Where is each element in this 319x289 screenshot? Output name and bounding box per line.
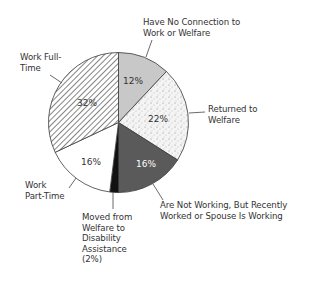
label-line: Worked or Spouse Is Working xyxy=(160,211,287,222)
label-not-working: Are Not Working, But Recently Worked or … xyxy=(160,200,287,221)
label-line: Welfare xyxy=(208,115,258,126)
label-line: Are Not Working, But Recently xyxy=(160,200,287,211)
pct-not-working: 16% xyxy=(136,159,156,169)
label-line: Disability xyxy=(82,233,132,244)
label-line: Work xyxy=(25,180,64,191)
label-full-time: Work Full- Time xyxy=(20,52,61,73)
pct-returned: 22% xyxy=(148,114,168,124)
label-line: Assistance xyxy=(82,244,132,255)
pct-part-time: 16% xyxy=(81,157,101,167)
label-line: Returned to xyxy=(208,104,258,115)
label-line: Part-Time xyxy=(25,191,64,202)
pie-chart: 12% 22% 16% 16% 32% xyxy=(0,0,319,289)
label-line: Work Full- xyxy=(20,52,61,63)
label-part-time: Work Part-Time xyxy=(25,180,64,201)
label-line: Have No Connection to xyxy=(143,17,240,28)
label-line: Work or Welfare xyxy=(143,28,240,39)
label-disability: Moved from Welfare to Disability Assista… xyxy=(82,212,132,265)
leader-returned xyxy=(189,112,205,113)
pct-no-connection: 12% xyxy=(123,76,143,86)
label-line: Time xyxy=(20,63,61,74)
label-line: (2%) xyxy=(82,254,132,265)
leader-part-time xyxy=(69,178,76,188)
pct-full-time: 32% xyxy=(77,98,97,108)
label-line: Welfare to xyxy=(82,223,132,234)
label-line: Moved from xyxy=(82,212,132,223)
leader-no-connection xyxy=(146,40,152,57)
label-returned: Returned to Welfare xyxy=(208,104,258,125)
leader-not-working xyxy=(153,184,163,200)
leader-full-time xyxy=(50,75,62,83)
label-no-connection: Have No Connection to Work or Welfare xyxy=(143,17,240,38)
